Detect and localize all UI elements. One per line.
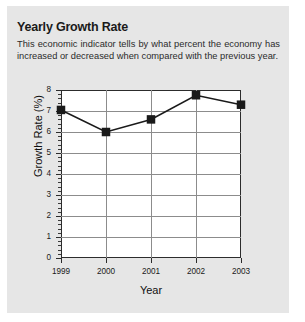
data-point-marker — [192, 91, 201, 100]
growth-rate-line-chart: 012345678 19992000200120022003 Growth Ra… — [19, 74, 281, 306]
data-point-marker — [102, 128, 111, 137]
x-axis-tick — [106, 258, 107, 263]
x-axis-tick-label: 2003 — [221, 267, 261, 276]
page-title: Yearly Growth Rate — [17, 20, 128, 34]
series-line — [61, 95, 241, 132]
y-axis-tick-label: 0 — [29, 253, 51, 262]
x-axis-tick-label: 2000 — [86, 267, 126, 276]
x-axis-tick — [196, 258, 197, 263]
y-axis-title: Growth Rate (%) — [32, 81, 44, 191]
chart-description: This economic indicator tells by what pe… — [17, 39, 280, 62]
x-axis-tick-label: 2001 — [131, 267, 171, 276]
data-point-marker — [57, 106, 66, 115]
data-point-marker — [147, 115, 156, 124]
data-point-marker — [237, 100, 246, 109]
y-axis-tick-label: 1 — [29, 232, 51, 241]
x-axis-tick — [61, 258, 62, 263]
y-axis-tick-label: 2 — [29, 211, 51, 220]
chart-card: Yearly Growth Rate This economic indicat… — [7, 6, 289, 313]
x-axis-tick — [241, 258, 242, 263]
x-axis-tick-label: 2002 — [176, 267, 216, 276]
x-axis-tick — [151, 258, 152, 263]
data-series-growth-rate — [61, 90, 241, 258]
x-axis-title: Year — [61, 284, 241, 296]
x-axis-tick-label: 1999 — [41, 267, 81, 276]
y-axis-tick-label: 3 — [29, 190, 51, 199]
